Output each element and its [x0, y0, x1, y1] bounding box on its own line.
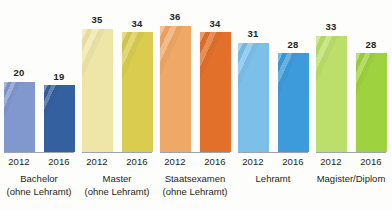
bar-rect[interactable] — [4, 82, 35, 152]
bar-value-label: 28 — [366, 40, 377, 50]
year-tick-2016: 2016 — [44, 156, 75, 167]
year-tick-row: 20122016 — [78, 156, 156, 167]
bar-rect[interactable] — [122, 32, 153, 152]
group-axis: 20122016Lehramt — [234, 153, 312, 210]
bar-group-bachelor: 201920122016Bachelor(ohne Lehramt) — [0, 0, 78, 210]
year-tick-row: 20122016 — [234, 156, 312, 167]
bar-rect[interactable] — [238, 43, 269, 152]
bar-lehramt-2016[interactable]: 28 — [278, 12, 309, 152]
year-tick-2012: 2012 — [160, 156, 191, 167]
year-tick-2016: 2016 — [278, 156, 309, 167]
bar-rect[interactable] — [316, 36, 347, 152]
bar-value-label: 36 — [170, 12, 181, 22]
category-label-line2: (ohne Lehramt) — [150, 186, 240, 199]
category-label-magister-diplom: Magister/Diplom — [306, 173, 392, 186]
category-label-staatsexamen: Staatsexamen(ohne Lehramt) — [150, 173, 240, 198]
year-tick-row: 20122016 — [156, 156, 234, 167]
year-tick-2016: 2016 — [122, 156, 153, 167]
category-label-lehramt: Lehramt — [228, 173, 318, 186]
bar-staatsexamen-2016[interactable]: 34 — [200, 12, 231, 152]
bar-rect[interactable] — [278, 53, 309, 152]
bar-group-master: 353420122016Master(ohne Lehramt) — [78, 0, 156, 210]
bar-staatsexamen-2012[interactable]: 36 — [160, 12, 191, 152]
bar-rect[interactable] — [44, 85, 75, 152]
bar-group-bars: 2019 — [0, 12, 78, 152]
group-axis: 20122016Magister/Diplom — [312, 153, 390, 210]
year-tick-2016: 2016 — [200, 156, 231, 167]
bar-value-label: 28 — [288, 40, 299, 50]
group-axis: 20122016Staatsexamen(ohne Lehramt) — [156, 153, 234, 210]
group-axis: 20122016Master(ohne Lehramt) — [78, 153, 156, 210]
year-tick-2012: 2012 — [82, 156, 113, 167]
bar-group-bars: 3328 — [312, 12, 390, 152]
category-label-line1: Magister/Diplom — [306, 173, 392, 186]
bar-value-label: 19 — [54, 72, 65, 82]
bar-value-label: 31 — [248, 29, 259, 39]
bar-value-label: 33 — [326, 22, 337, 32]
year-tick-2012: 2012 — [4, 156, 35, 167]
bar-magister-diplom-2012[interactable]: 33 — [316, 12, 347, 152]
category-label-line2: (ohne Lehramt) — [72, 186, 162, 199]
year-tick-row: 20122016 — [0, 156, 78, 167]
bar-value-label: 35 — [92, 15, 103, 25]
category-label-master: Master(ohne Lehramt) — [72, 173, 162, 198]
category-label-line1: Lehramt — [228, 173, 318, 186]
bar-rect[interactable] — [200, 32, 231, 152]
bar-group-lehramt: 312820122016Lehramt — [234, 0, 312, 210]
plot-area: 201920122016Bachelor(ohne Lehramt)353420… — [0, 0, 392, 210]
year-tick-2012: 2012 — [238, 156, 269, 167]
year-tick-2016: 2016 — [356, 156, 387, 167]
bar-lehramt-2012[interactable]: 31 — [238, 12, 269, 152]
bar-bachelor-2012[interactable]: 20 — [4, 12, 35, 152]
bar-rect[interactable] — [82, 29, 113, 152]
year-tick-2012: 2012 — [316, 156, 347, 167]
bar-rect[interactable] — [160, 26, 191, 153]
group-axis: 20122016Bachelor(ohne Lehramt) — [0, 153, 78, 210]
bar-master-2012[interactable]: 35 — [82, 12, 113, 152]
bar-value-label: 34 — [132, 19, 143, 29]
bar-group-bars: 3128 — [234, 12, 312, 152]
bar-value-label: 34 — [210, 19, 221, 29]
category-label-line1: Master — [72, 173, 162, 186]
bar-group-bars: 3534 — [78, 12, 156, 152]
bar-group-magister-diplom: 332820122016Magister/Diplom — [312, 0, 390, 210]
bar-magister-diplom-2016[interactable]: 28 — [356, 12, 387, 152]
bar-group-staatsexamen: 363420122016Staatsexamen(ohne Lehramt) — [156, 0, 234, 210]
bar-chart: 201920122016Bachelor(ohne Lehramt)353420… — [0, 0, 392, 210]
bar-value-label: 20 — [14, 68, 25, 78]
bar-master-2016[interactable]: 34 — [122, 12, 153, 152]
bar-bachelor-2016[interactable]: 19 — [44, 12, 75, 152]
category-label-line1: Staatsexamen — [150, 173, 240, 186]
bar-group-bars: 3634 — [156, 12, 234, 152]
year-tick-row: 20122016 — [312, 156, 390, 167]
bar-rect[interactable] — [356, 53, 387, 152]
